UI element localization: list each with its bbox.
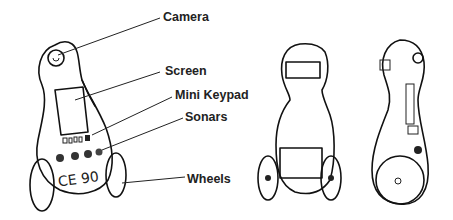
- robot-three-quarter-view: CE 90: [30, 18, 185, 211]
- label-mini-keypad: Mini Keypad: [175, 88, 249, 102]
- robot-side-view: [372, 40, 428, 204]
- robot-marking: CE 90: [57, 168, 100, 190]
- label-wheels: Wheels: [187, 172, 231, 186]
- robot-front-view: [258, 44, 341, 200]
- camera-icon: [48, 50, 64, 66]
- sonars-shape: [56, 149, 103, 163]
- mini-keypad-shape: [63, 135, 90, 143]
- left-wheel: [30, 159, 54, 211]
- screen-shape: [55, 87, 88, 135]
- label-camera: Camera: [163, 10, 209, 24]
- label-screen: Screen: [165, 64, 207, 78]
- right-wheel: [106, 153, 126, 197]
- label-sonars: Sonars: [185, 110, 227, 124]
